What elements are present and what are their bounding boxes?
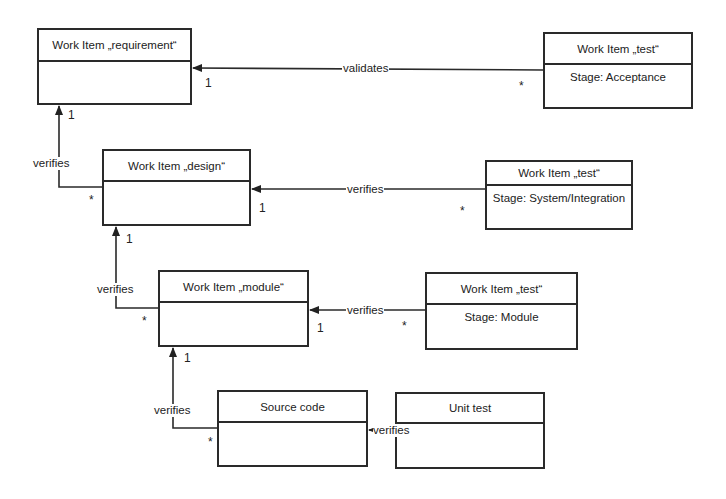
test-acceptance-title: Work Item „test“ bbox=[545, 34, 691, 65]
module-attributes bbox=[160, 303, 307, 309]
source-mult-target: 1 bbox=[184, 352, 191, 364]
design-verifies-label: verifies bbox=[32, 157, 70, 170]
requirement-attributes bbox=[39, 62, 190, 68]
test-system-stage: Stage: System/Integration bbox=[487, 186, 631, 204]
test-module-stage: Stage: Module bbox=[427, 305, 576, 323]
module-box: Work Item „module“ bbox=[158, 270, 309, 347]
test-module-mult-target: 1 bbox=[317, 322, 324, 334]
unit-test-title: Unit test bbox=[397, 394, 543, 424]
test-module-title: Work Item „test“ bbox=[427, 274, 576, 305]
unit-test-box: Unit test bbox=[395, 392, 545, 469]
unit-test-verifies-label: verifies bbox=[373, 424, 410, 437]
source-verifies-label: verifies bbox=[153, 404, 191, 417]
design-box: Work Item „design“ bbox=[102, 149, 251, 226]
validates-mult-source: * bbox=[519, 80, 524, 92]
test-system-title: Work Item „test“ bbox=[487, 162, 631, 186]
requirement-box: Work Item „requirement“ bbox=[37, 28, 192, 105]
validates-label: validates bbox=[342, 62, 389, 75]
requirement-title: Work Item „requirement“ bbox=[39, 30, 190, 62]
test-acceptance-box: Work Item „test“ Stage: Acceptance bbox=[543, 32, 693, 109]
design-mult-target: 1 bbox=[68, 109, 75, 121]
source-code-box: Source code bbox=[217, 390, 368, 467]
module-mult-source: * bbox=[142, 315, 147, 327]
validates-mult-target: 1 bbox=[205, 77, 212, 89]
test-module-box: Work Item „test“ Stage: Module bbox=[425, 272, 578, 350]
test-module-mult-source: * bbox=[402, 320, 407, 332]
test-acceptance-stage: Stage: Acceptance bbox=[545, 65, 691, 83]
source-code-attributes bbox=[219, 423, 366, 429]
design-mult-source: * bbox=[89, 194, 94, 206]
test-system-box: Work Item „test“ Stage: System/Integrati… bbox=[485, 160, 633, 230]
module-mult-target: 1 bbox=[126, 233, 133, 245]
source-mult-source: * bbox=[208, 436, 213, 448]
test-system-mult-source: * bbox=[460, 205, 465, 217]
module-verifies-label: verifies bbox=[96, 283, 134, 296]
test-system-mult-target: 1 bbox=[259, 202, 266, 214]
test-module-verifies-label: verifies bbox=[346, 304, 384, 317]
design-verifies-requirement-connector bbox=[59, 106, 102, 187]
design-attributes bbox=[104, 182, 249, 188]
test-system-verifies-label: verifies bbox=[346, 183, 384, 196]
unit-test-attributes bbox=[397, 424, 543, 430]
design-title: Work Item „design“ bbox=[104, 151, 249, 182]
module-title: Work Item „module“ bbox=[160, 272, 307, 303]
source-code-title: Source code bbox=[219, 392, 366, 423]
